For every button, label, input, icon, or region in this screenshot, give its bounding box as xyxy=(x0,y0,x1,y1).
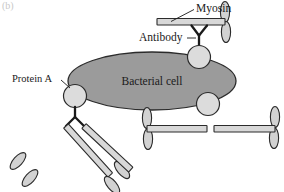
protein-a-circle-left xyxy=(64,85,87,108)
myosin-head xyxy=(102,174,123,192)
myosin-lower-right xyxy=(82,124,133,192)
protein-a-circle-right xyxy=(197,93,220,116)
myosin-head xyxy=(270,107,279,128)
panel-tag: (b) xyxy=(2,0,14,12)
myosin-head xyxy=(20,167,41,189)
figure-container: (b) Myosin Antibody Bacterial cell xyxy=(0,0,284,192)
myosin-tail-rod xyxy=(157,19,225,26)
label-antibody: Antibody xyxy=(139,31,183,44)
myosin-tail-rod xyxy=(214,126,275,133)
antibody-left xyxy=(66,107,84,126)
label-protein-a: Protein A xyxy=(12,73,52,84)
myosin-bottom-outer xyxy=(214,107,280,149)
myosin-bacterial-cell-diagram: (b) Myosin Antibody Bacterial cell xyxy=(0,0,284,192)
protein-a-circle-top xyxy=(188,46,211,69)
myosin-bottom-inner xyxy=(142,108,207,150)
myosin-tail-rod xyxy=(147,126,207,133)
label-myosin: Myosin xyxy=(196,2,231,15)
label-bacterial-cell: Bacterial cell xyxy=(122,75,183,87)
antibody-top xyxy=(192,26,208,47)
myosin-head xyxy=(8,150,29,172)
